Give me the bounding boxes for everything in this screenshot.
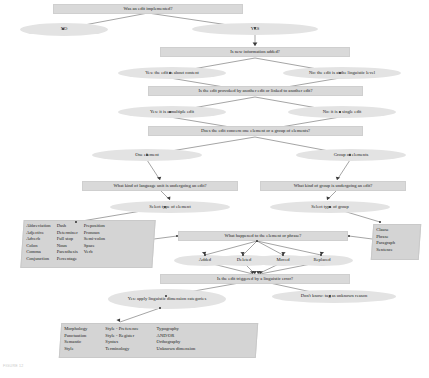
edge-dot (75, 221, 77, 223)
edge-dot (169, 111, 171, 113)
node-label: Was an edit implemented? (124, 7, 173, 12)
answer-yes[interactable]: YES (192, 23, 318, 35)
answer-linguistic-level[interactable]: No: the edit is at the linguistic level (283, 67, 401, 79)
element-type-item: Dash (57, 223, 78, 228)
element-type-item: Adverb (26, 236, 50, 241)
element-type-item: Colon (26, 243, 50, 248)
node-label: Is the edit triggered by a linguistic er… (217, 277, 293, 282)
answer-apply-dimension-categories[interactable]: Yes: apply linguistic dimension categori… (108, 289, 226, 309)
edge-dot (379, 221, 381, 223)
answer-single-edit[interactable]: No: it is a single edit (288, 106, 396, 118)
edge-dot (348, 235, 350, 237)
question-kind-of-group[interactable]: What kind of group is undergoing an edit… (260, 181, 406, 191)
list-element-types[interactable]: Abbreviation Adjective Adverb Colon Comm… (20, 220, 155, 268)
element-types-column-1: Abbreviation Adjective Adverb Colon Comm… (26, 223, 50, 261)
element-type-item: Full stop (57, 236, 78, 241)
edge-dot (159, 307, 161, 309)
dimension-item: Style - Preference (105, 326, 138, 331)
dimension-item: Typography (157, 326, 196, 331)
element-type-item: Space (84, 243, 105, 248)
node-label: Deleted (237, 258, 251, 263)
action-replaced[interactable]: Replaced (291, 255, 353, 266)
answer-dont-know-unknown-reason[interactable]: Don't know: tag as unknown reason (272, 290, 396, 303)
element-types-column-3: Preposition Pronoun Semi-colon Space Ver… (84, 223, 105, 261)
question-new-information[interactable]: Is new information added? (160, 47, 350, 57)
dimension-column-1: Morphology Punctuation Semantic Style (64, 326, 87, 351)
dimension-item: Style - Register (105, 333, 138, 338)
node-label: Group of elements (334, 153, 369, 158)
element-type-item: Comma (26, 249, 50, 254)
edge-dot (349, 154, 351, 156)
node-label: What kind of group is undergoing an edit… (294, 184, 373, 189)
element-type-item: Preposition (84, 223, 105, 228)
group-types-column-1: Clause Phrase Paragraph Sentence (376, 227, 395, 252)
node-label: Is the edit provoked by another edit or … (199, 89, 313, 94)
dimension-item: Morphology (64, 326, 87, 331)
dimension-item: Orthography (157, 339, 196, 344)
edge-dot (320, 254, 322, 256)
node-label: Yes: it is a multiple edit (150, 110, 194, 115)
group-type-item: Sentence (376, 247, 395, 252)
list-group-types[interactable]: Clause Phrase Paragraph Sentence (371, 224, 422, 260)
group-type-item: Paragraph (376, 240, 395, 245)
group-type-item: Clause (376, 227, 395, 232)
element-type-item: Conjunction (26, 256, 50, 261)
question-edit-implemented[interactable]: Was an edit implemented? (53, 4, 243, 14)
node-label: Yes: the edit is about content (145, 71, 199, 76)
answer-group-of-elements[interactable]: Group of elements (296, 149, 406, 161)
node-label: Yes: apply linguistic dimension categori… (128, 296, 206, 302)
node-label: Does the edit concern one element or a g… (201, 129, 310, 134)
dimension-column-2: Style - Preference Style - Register Synt… (105, 326, 138, 351)
action-select-type-of-element[interactable]: Select type of element (110, 201, 230, 213)
element-type-item: Determiner (57, 230, 78, 235)
node-label: Moved (276, 258, 289, 263)
edge-dot (165, 295, 167, 297)
edge-dot (176, 235, 178, 237)
element-type-item: Noun (57, 243, 78, 248)
element-type-item: Pronoun (84, 230, 105, 235)
element-type-item: Adjective (26, 230, 50, 235)
question-what-happened[interactable]: What happened to the element or phrase? (178, 231, 348, 241)
dimension-item: Syntax (105, 339, 138, 344)
dimension-item: Unknown dimension (157, 346, 196, 351)
question-one-element-or-group[interactable]: Does the edit concern one element or a g… (148, 126, 363, 136)
question-provoked-by-another-edit[interactable]: Is the edit provoked by another edit or … (148, 86, 363, 96)
group-type-item: Phrase (376, 234, 395, 239)
dimension-item: Terminology (105, 346, 138, 351)
edge-dot (254, 27, 256, 29)
node-label: No: the edit is at the linguistic level (309, 71, 375, 76)
dimension-item: AND/OR (157, 333, 196, 338)
edge-dot (62, 28, 64, 30)
element-type-item: Abbreviation (26, 223, 50, 228)
edge-dot (339, 111, 341, 113)
edge-dot (169, 72, 171, 74)
node-label: Is new information added? (230, 50, 280, 55)
node-label: Don't know: tag as unknown reason (301, 294, 367, 299)
dimension-item: Semantic (64, 339, 87, 344)
answer-no[interactable]: NO (20, 23, 108, 36)
node-label: What kind of language unit is undergoing… (113, 184, 206, 189)
dimension-item: Punctuation (64, 333, 87, 338)
element-type-item: Parenthesis (57, 249, 78, 254)
flowchart-canvas: Was an edit implemented? NO YES Is new i… (0, 0, 429, 378)
node-label: Added (199, 258, 211, 263)
answer-multiple-edit[interactable]: Yes: it is a multiple edit (118, 106, 226, 118)
edge-dot (204, 254, 206, 256)
question-kind-of-language-unit[interactable]: What kind of language unit is undergoing… (82, 181, 238, 191)
list-dimension-categories[interactable]: Morphology Punctuation Semantic Style St… (59, 323, 258, 358)
answer-about-content[interactable]: Yes: the edit is about content (118, 67, 226, 79)
edge-dot (282, 254, 284, 256)
edge-dot (339, 72, 341, 74)
element-type-item: Verb (84, 249, 105, 254)
edge-dot (146, 154, 148, 156)
element-type-item: Percentage (57, 256, 78, 261)
question-linguistic-error[interactable]: Is the edit triggered by a linguistic er… (160, 274, 350, 284)
edge-dot (242, 254, 244, 256)
edge-dot (164, 206, 166, 208)
element-type-item: Semi-colon (84, 236, 105, 241)
node-label: No: it is a single edit (323, 110, 362, 115)
figure-caption: FIGURE 12 (3, 364, 23, 368)
edge-dot (329, 295, 331, 297)
node-label: Replaced (313, 258, 330, 263)
dimension-item: Style (64, 346, 87, 351)
